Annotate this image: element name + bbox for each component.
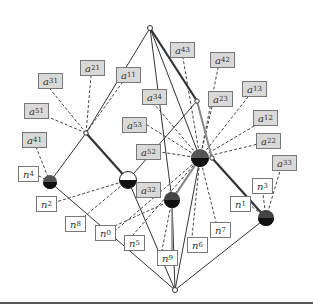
label-n7: n7 xyxy=(210,222,231,238)
label-a53: a53 xyxy=(122,117,147,133)
label-n8: n8 xyxy=(65,216,86,232)
label-n6: n6 xyxy=(187,237,208,253)
label-a52: a52 xyxy=(136,144,161,160)
node-right xyxy=(258,210,274,226)
node-half xyxy=(120,172,137,189)
label-a43: a43 xyxy=(170,42,195,58)
label-a21: a21 xyxy=(80,60,105,76)
label-a13: a13 xyxy=(242,81,267,97)
node-mid xyxy=(164,192,180,208)
upper-right-junction xyxy=(195,99,199,103)
label-n2: n2 xyxy=(36,196,57,212)
label-n9: n9 xyxy=(157,250,178,266)
label-a23: a23 xyxy=(208,91,233,107)
node-big xyxy=(191,149,209,167)
label-a42: a42 xyxy=(210,52,235,68)
label-a33: a33 xyxy=(272,155,297,171)
right-junction xyxy=(210,156,214,160)
top-vertex xyxy=(148,26,153,31)
label-a41: a41 xyxy=(22,132,47,148)
label-a31: a31 xyxy=(38,73,63,89)
label-n4: n4 xyxy=(18,166,39,182)
bottom-divider xyxy=(0,302,313,304)
label-a11: a11 xyxy=(116,67,141,83)
left-junction xyxy=(84,131,88,135)
bottom-vertex xyxy=(173,288,178,293)
label-a51: a51 xyxy=(24,103,49,119)
label-a34: a34 xyxy=(142,89,167,105)
label-n5: n5 xyxy=(124,235,145,251)
label-a22: a22 xyxy=(256,133,281,149)
label-n0: n0 xyxy=(95,225,116,241)
label-n3: n3 xyxy=(252,178,273,194)
label-n1: n1 xyxy=(230,196,251,212)
node-left xyxy=(43,175,57,189)
label-a12: a12 xyxy=(253,110,278,126)
label-a32: a32 xyxy=(136,182,161,198)
